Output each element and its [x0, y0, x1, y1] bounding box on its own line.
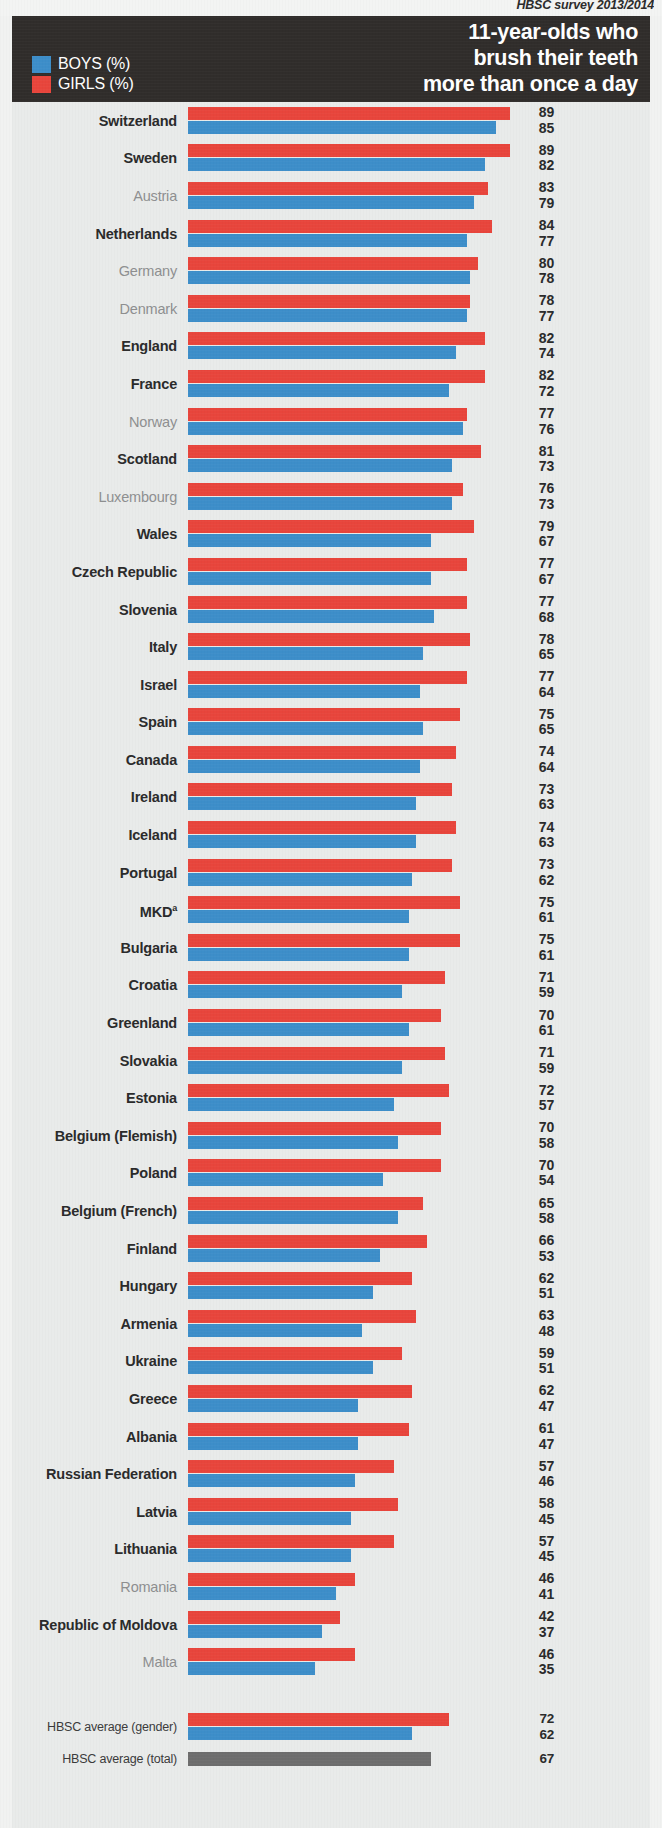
country-label: England [12, 338, 188, 354]
bar-girls [188, 859, 452, 872]
bar-boys [188, 534, 431, 547]
bar-boys [188, 1023, 409, 1036]
country-label: Italy [12, 639, 188, 655]
bar-boys [188, 309, 467, 322]
bar-group [188, 1083, 650, 1113]
bar-group [188, 1196, 650, 1226]
value-girls: 46 [498, 1571, 554, 1587]
legend-label-boys: BOYS (%) [58, 55, 130, 73]
country-row: Belgium (French)6558 [12, 1192, 650, 1230]
bar-boys [188, 948, 409, 961]
value-labels: 7362 [498, 854, 554, 892]
value-labels: 7159 [498, 1042, 554, 1080]
country-row: Portugal7362 [12, 854, 650, 892]
country-label: Romania [12, 1579, 188, 1595]
value-girls: 62 [498, 1383, 554, 1399]
bar-boys [188, 1437, 358, 1450]
value-boys: 59 [498, 1061, 554, 1077]
bar-girls [188, 1648, 355, 1661]
value-boys: 51 [498, 1361, 554, 1377]
chart-plot-area: Switzerland8985Sweden8982Austria8379Neth… [12, 102, 650, 1812]
bar-boys [188, 1587, 336, 1600]
bar-girls [188, 144, 510, 157]
country-label: Slovenia [12, 602, 188, 618]
value-girls: 75 [498, 895, 554, 911]
bar-girls [188, 1047, 445, 1060]
country-row: Switzerland8985 [12, 102, 650, 140]
value-labels: 4237 [498, 1606, 554, 1644]
value-boys: 64 [498, 760, 554, 776]
value-labels: 7363 [498, 779, 554, 817]
bar-girls [188, 1084, 449, 1097]
value-labels: 6247 [498, 1380, 554, 1418]
page-title-line-1: 11-year-olds who [423, 19, 638, 45]
bar-group [188, 106, 650, 136]
country-row: Bulgaria7561 [12, 929, 650, 967]
value-girls: 66 [498, 1233, 554, 1249]
country-row: Lithuania5745 [12, 1531, 650, 1569]
bar-group [188, 1713, 650, 1741]
value-labels: 7262 [498, 1711, 554, 1743]
country-row: France8272 [12, 365, 650, 403]
value-girls: 82 [498, 331, 554, 347]
bar-girls [188, 1197, 423, 1210]
value-labels: 7464 [498, 741, 554, 779]
country-label: Spain [12, 714, 188, 730]
country-row: Ireland7363 [12, 779, 650, 817]
chart-header: 11-year-olds who brush their teeth more … [12, 16, 650, 102]
bar-group [188, 1121, 650, 1151]
bar-boys [188, 1727, 412, 1740]
value-boys: 67 [498, 534, 554, 550]
bar-group [188, 632, 650, 662]
bar-girls [188, 1423, 409, 1436]
value-boys: 85 [498, 121, 554, 137]
bar-girls [188, 746, 456, 759]
value-girls: 77 [498, 556, 554, 572]
value-boys: 53 [498, 1249, 554, 1265]
average-label: HBSC average (gender) [12, 1719, 188, 1735]
country-label: Denmark [12, 301, 188, 317]
value-labels: 7877 [498, 290, 554, 328]
value-boys: 45 [498, 1549, 554, 1565]
value-labels: 7565 [498, 704, 554, 742]
value-girls: 70 [498, 1008, 554, 1024]
bar-boys [188, 196, 474, 209]
value-labels: 7776 [498, 403, 554, 441]
value-girls: 57 [498, 1534, 554, 1550]
country-label: Slovakia [12, 1053, 188, 1069]
country-label: Greece [12, 1391, 188, 1407]
bar-girls [188, 1385, 412, 1398]
bar-group [188, 858, 650, 888]
country-row: Hungary6251 [12, 1267, 650, 1305]
value-girls: 82 [498, 368, 554, 384]
value-labels: 7054 [498, 1155, 554, 1193]
value-labels: 7561 [498, 929, 554, 967]
country-row: Sweden8982 [12, 140, 650, 178]
value-boys: 63 [498, 835, 554, 851]
bar-girls [188, 1159, 441, 1172]
value-girls: 89 [498, 105, 554, 121]
bar-boys [188, 722, 423, 735]
value-boys: 61 [498, 910, 554, 926]
value-boys: 77 [498, 309, 554, 325]
country-row: Greece6247 [12, 1380, 650, 1418]
country-row: Austria8379 [12, 177, 650, 215]
bar-group [188, 1647, 650, 1677]
bar-girls [188, 633, 470, 646]
country-label: Canada [12, 752, 188, 768]
value-girls: 78 [498, 632, 554, 648]
country-row: Germany8078 [12, 252, 650, 290]
country-label: Estonia [12, 1090, 188, 1106]
value-boys: 65 [498, 647, 554, 663]
country-label: Israel [12, 677, 188, 693]
country-label: Scotland [12, 451, 188, 467]
country-label: Ukraine [12, 1353, 188, 1369]
country-label: Lithuania [12, 1541, 188, 1557]
bar-girls [188, 896, 460, 909]
bar-girls [188, 708, 460, 721]
bar-girls [188, 971, 445, 984]
value-boys: 58 [498, 1136, 554, 1152]
value-girls: 73 [498, 782, 554, 798]
value-labels: 5745 [498, 1531, 554, 1569]
value-labels: 7561 [498, 891, 554, 929]
